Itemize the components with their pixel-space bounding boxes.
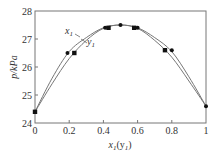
x-tick-label: 0.4 (97, 125, 110, 136)
x-tick-label: 0 (33, 125, 38, 136)
marker-square (106, 26, 110, 30)
curve-y1 (35, 25, 206, 112)
marker-square (163, 48, 167, 52)
y-tick-label: 28 (22, 6, 32, 17)
y-tick-label: 24 (22, 118, 32, 129)
curve-label-x1: x1 (64, 25, 73, 38)
x-axis-ticks: 00.20.40.60.81 (33, 120, 209, 136)
curve-label-x1-leader (75, 34, 80, 37)
plot-frame (35, 11, 206, 123)
x-tick-label: 0.6 (131, 125, 144, 136)
x-tick-label: 1 (204, 125, 209, 136)
y-tick-label: 26 (22, 62, 32, 73)
marker-circle (204, 104, 208, 108)
curves (35, 25, 206, 112)
marker-square (33, 110, 37, 114)
x-tick-label: 0.8 (166, 125, 179, 136)
marker-square (132, 26, 136, 30)
vapor-liquid-equilibrium-chart: 00.20.40.60.81 2425262728 p/kPa x1(y1) x… (0, 0, 217, 153)
marker-square (72, 51, 76, 55)
marker-circle (119, 23, 123, 27)
marker-circle (170, 48, 174, 52)
data-markers (33, 23, 208, 114)
y-axis-title: p/kPa (8, 55, 19, 79)
marker-circle (65, 51, 69, 55)
x-axis-title: x1(y1) (107, 139, 131, 152)
y-tick-label: 25 (22, 90, 32, 101)
y-tick-label: 27 (22, 34, 32, 45)
curve-label-y1: y1 (86, 36, 95, 49)
x-tick-label: 0.2 (63, 125, 76, 136)
